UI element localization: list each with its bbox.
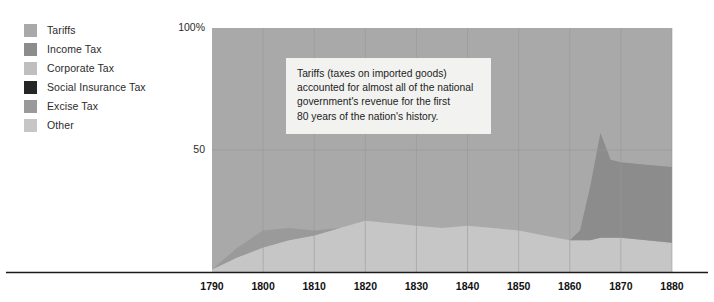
annotation-line-2: accounted for almost all of the national [297,81,480,95]
x-axis-tick-1860: 1860 [547,280,593,292]
y-axis-tick-100: 100% [145,21,205,33]
x-axis-tick-1830: 1830 [393,280,439,292]
stacked-area-chart: 100% 50 17901800181018201830184018501860… [0,0,714,302]
annotation-line-1: Tariffs (taxes on imported goods) [297,67,480,81]
chart-annotation-callout: Tariffs (taxes on imported goods) accoun… [286,58,491,134]
x-axis-tick-1820: 1820 [342,280,388,292]
x-axis-tick-1850: 1850 [496,280,542,292]
x-axis-tick-1870: 1870 [598,280,644,292]
x-axis-tick-1800: 1800 [240,280,286,292]
x-axis-tick-1790: 1790 [189,280,235,292]
annotation-line-4: 80 years of the nation's history. [297,110,480,124]
x-axis-tick-1810: 1810 [291,280,337,292]
annotation-line-3: government's revenue for the first [297,95,480,109]
x-axis-tick-1880: 1880 [649,280,695,292]
chart-page: Tariffs Income Tax Corporate Tax Social … [0,0,714,302]
chart-plot-area [0,0,714,302]
y-axis-tick-50: 50 [145,143,205,155]
x-axis-tick-1840: 1840 [445,280,491,292]
